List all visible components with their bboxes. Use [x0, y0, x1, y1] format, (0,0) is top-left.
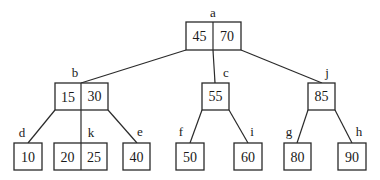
node-b-key-1: 15	[61, 90, 75, 105]
node-c: c 55	[202, 65, 229, 110]
edge-c-i	[229, 110, 248, 143]
node-g: g 80	[284, 124, 311, 170]
node-b-label: b	[72, 65, 79, 80]
node-a-key-1: 45	[193, 29, 207, 44]
node-j-label: j	[324, 65, 329, 80]
node-c-key-1: 55	[209, 89, 223, 104]
node-g-key-1: 80	[291, 150, 305, 165]
edge-a-j	[241, 50, 322, 83]
edge-b-e	[108, 110, 137, 143]
node-h-key-1: 90	[345, 150, 359, 165]
node-d-label: d	[19, 125, 26, 140]
node-c-label: c	[223, 65, 229, 80]
node-g-label: g	[286, 124, 293, 139]
edge-j-g	[297, 110, 308, 143]
node-d-key-1: 10	[21, 150, 35, 165]
node-h: h 90	[338, 124, 366, 170]
node-h-label: h	[356, 124, 363, 139]
node-f: f 50	[176, 124, 204, 170]
edge-j-h	[335, 110, 352, 143]
node-k-key-1: 20	[61, 150, 75, 165]
edge-b-d	[28, 110, 55, 143]
node-f-label: f	[179, 124, 184, 139]
edge-a-c	[213, 50, 215, 83]
node-k-key-2: 25	[87, 150, 101, 165]
node-b-key-2: 30	[88, 89, 102, 104]
edge-a-b	[81, 50, 186, 83]
node-e-label: e	[137, 124, 143, 139]
node-j-key-1: 85	[315, 89, 329, 104]
node-j: j 85	[308, 65, 335, 110]
b-tree-diagram: a 45 70 b 15 30 c 55 j 85 d 10 k 20 25 e	[0, 0, 380, 180]
node-e-key-1: 40	[130, 150, 144, 165]
node-i-label: i	[250, 124, 254, 139]
node-a-key-2: 70	[220, 29, 234, 44]
node-a: a 45 70	[186, 5, 241, 50]
node-b: b 15 30	[55, 65, 108, 110]
node-i-key-1: 60	[241, 150, 255, 165]
node-i: i 60	[234, 124, 262, 170]
node-a-label: a	[210, 5, 216, 20]
edge-c-f	[190, 110, 202, 143]
node-k-label: k	[88, 125, 95, 140]
node-f-key-1: 50	[183, 150, 197, 165]
